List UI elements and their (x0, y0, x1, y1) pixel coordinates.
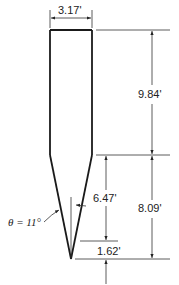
extension-lines (75, 30, 170, 259)
taper-length-label: 6.47' (93, 192, 117, 204)
lower-height-label: 8.09' (138, 202, 162, 214)
upper-height-label: 9.84' (138, 88, 162, 100)
width-label: 3.17' (58, 4, 82, 16)
pile-diagram: 3.17' 9.84' 8.09' 6.47' 1.62' θ = 11° (0, 0, 179, 285)
tip-length-label: 1.62' (97, 245, 121, 257)
angle-label: θ = 11° (8, 216, 42, 228)
